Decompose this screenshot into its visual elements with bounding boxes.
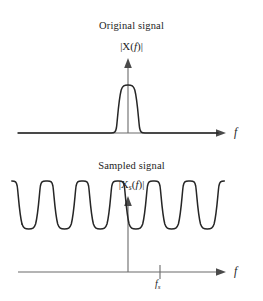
original-y-axis-arrowhead — [124, 58, 132, 68]
sampling-frequency-label: fs — [155, 278, 161, 289]
sampling-spectrum-figure: Original signal |X(f)| f Sampled signal … — [0, 0, 263, 301]
sampled-x-axis-label: f — [234, 265, 237, 277]
original-x-axis-label: f — [234, 126, 237, 138]
panel-sampled-signal: Sampled signal |Xs(f)| f fs — [0, 150, 263, 301]
panel-original-signal: Original signal |X(f)| f — [0, 0, 263, 150]
original-spectrum-curve — [18, 85, 218, 133]
original-signal-plot — [0, 0, 263, 150]
sampled-spectrum-curve — [22, 181, 224, 229]
sampled-signal-plot — [0, 150, 263, 301]
sampled-x-axis-arrowhead — [216, 268, 226, 276]
sampled-spectrum-left-partial — [12, 181, 22, 224]
